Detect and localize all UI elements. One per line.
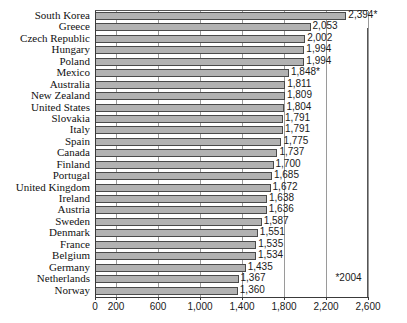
category-label: Greece <box>59 21 90 32</box>
bar <box>95 275 239 283</box>
bar-value-label: 1,700 <box>276 158 301 170</box>
chart-row: 1,700 <box>95 160 368 171</box>
plot-area: 2,394*2,0532,0021,9941,9941,848*1,8111,8… <box>95 11 368 297</box>
x-axis-tick-label: 1,400 <box>229 301 254 313</box>
chart-row: 1,994 <box>95 57 368 68</box>
x-axis-tick-label: 2,200 <box>313 301 338 313</box>
category-label: Australia <box>50 79 90 90</box>
category-label: Portugal <box>53 170 90 181</box>
chart-row: 1,367 <box>95 274 368 285</box>
x-axis-tick <box>95 297 96 300</box>
chart-row: 1,685 <box>95 171 368 182</box>
bar-value-label: 1,994 <box>306 55 331 67</box>
bar <box>95 23 311 31</box>
bar <box>95 138 281 146</box>
category-label: Czech Republic <box>20 33 90 44</box>
bar-value-label: 1,534 <box>258 249 283 261</box>
bar <box>95 229 258 237</box>
category-axis-labels: South KoreaGreeceCzech RepublicHungaryPo… <box>0 11 93 297</box>
bar-value-label: 2,053 <box>313 20 338 32</box>
x-axis-tick-label: 0 <box>92 301 98 313</box>
category-label: Slovakia <box>52 113 91 124</box>
chart-row: 1,809 <box>95 91 368 102</box>
bar <box>95 149 277 157</box>
x-axis-tick <box>242 297 243 300</box>
chart-row: 1,848* <box>95 68 368 79</box>
bar <box>95 115 283 123</box>
bar <box>95 172 272 180</box>
bar-value-label: 1,672 <box>273 181 298 193</box>
bar <box>95 206 267 214</box>
bar-chart: South KoreaGreeceCzech RepublicHungaryPo… <box>0 0 407 323</box>
x-axis-tick <box>284 297 285 300</box>
bar-value-label: 1,775 <box>283 135 308 147</box>
chart-row: 1,534 <box>95 251 368 262</box>
bar <box>95 218 262 226</box>
category-label: United Kingdom <box>16 182 90 193</box>
category-label: Hungary <box>52 44 91 55</box>
category-label: Germany <box>49 262 90 273</box>
bar-value-label: 1,587 <box>264 215 289 227</box>
bar-value-label: 1,791 <box>285 112 310 124</box>
category-label: Canada <box>57 147 90 158</box>
bar <box>95 195 267 203</box>
chart-row: 1,737 <box>95 148 368 159</box>
category-label: Poland <box>59 56 90 67</box>
chart-row: 1,636 <box>95 205 368 216</box>
category-label: Sweden <box>55 216 90 227</box>
bar <box>95 104 284 112</box>
bar <box>95 81 285 89</box>
bar-value-label: 1,535 <box>258 238 283 250</box>
category-label: Finland <box>56 159 90 170</box>
bar <box>95 12 346 20</box>
category-label: Spain <box>65 136 90 147</box>
x-axis-line <box>95 297 368 298</box>
chart-row: 1,638 <box>95 194 368 205</box>
bar <box>95 92 285 100</box>
category-label: Mexico <box>56 67 90 78</box>
category-label: Italy <box>70 124 90 135</box>
bar-value-label: 1,551 <box>260 226 285 238</box>
bar-value-label: 1,811 <box>287 78 311 90</box>
chart-row: 1,535 <box>95 240 368 251</box>
chart-row: 1,791 <box>95 114 368 125</box>
bar-value-label: 2,002 <box>307 32 332 44</box>
bar-value-label: 1,791 <box>285 123 310 135</box>
x-axis-tick-label: 600 <box>150 301 167 313</box>
bar <box>95 126 283 134</box>
x-axis-tick-label: 1,000 <box>187 301 212 313</box>
bar-value-label: 1,636 <box>269 203 294 215</box>
chart-row: 1,811 <box>95 80 368 91</box>
x-axis-tick-label: 1,800 <box>271 301 296 313</box>
x-axis-tick <box>158 297 159 300</box>
chart-row: 1,791 <box>95 125 368 136</box>
x-axis-tick <box>116 297 117 300</box>
bar <box>95 35 305 43</box>
bar <box>95 252 256 260</box>
bar-value-label: 1,809 <box>287 89 312 101</box>
chart-row: 1,551 <box>95 228 368 239</box>
footnote-annotation: *2004 <box>335 272 361 283</box>
chart-row: 1,775 <box>95 137 368 148</box>
category-label: Netherlands <box>37 273 90 284</box>
bar-value-label: 1,685 <box>274 169 299 181</box>
x-axis-tick-label: 2,600 <box>355 301 380 313</box>
category-label: France <box>60 239 90 250</box>
bar <box>95 241 256 249</box>
y-axis-line <box>95 11 96 297</box>
chart-row: 1,360 <box>95 286 368 297</box>
bar <box>95 184 271 192</box>
bar <box>95 264 246 272</box>
category-label: South Korea <box>35 10 90 21</box>
x-axis-tick-label: 200 <box>108 301 125 313</box>
category-label: Norway <box>55 285 90 296</box>
bar-value-label: 1,367 <box>241 272 266 284</box>
bar <box>95 46 304 54</box>
category-label: United States <box>31 102 90 113</box>
category-label: Denmark <box>49 227 90 238</box>
bar-value-label: 1,435 <box>248 261 273 273</box>
chart-row: 1,587 <box>95 217 368 228</box>
x-axis-tick <box>326 297 327 300</box>
bar <box>95 58 304 66</box>
bar-value-label: 2,394* <box>348 9 377 21</box>
